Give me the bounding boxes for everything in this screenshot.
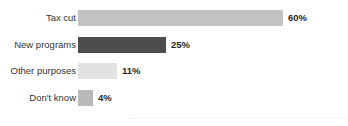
bar-value-label: 25% — [171, 37, 190, 53]
bar-track: 25% — [78, 37, 348, 53]
bottom-divider — [128, 118, 348, 120]
bar-track: 11% — [78, 63, 348, 79]
bar-row: Tax cut 60% — [0, 10, 348, 26]
bar-value-label: 60% — [288, 10, 307, 26]
bar-row: New programs 25% — [0, 37, 348, 53]
bar-fill — [78, 63, 117, 79]
bar-fill — [78, 90, 93, 106]
ghost-text-artifact — [186, 92, 348, 104]
bar-row: Other purposes 11% — [0, 63, 348, 79]
category-label: New programs — [14, 37, 76, 53]
category-label: Don't know — [29, 90, 76, 106]
bar-track: 60% — [78, 10, 348, 26]
category-label: Other purposes — [11, 63, 76, 79]
bar-value-label: 4% — [98, 90, 112, 106]
bar-value-label: 11% — [122, 63, 141, 79]
bar-fill — [78, 10, 283, 26]
bar-fill — [78, 37, 166, 53]
bar-chart: Tax cut 60% New programs 25% Other purpo… — [0, 0, 348, 126]
category-label: Tax cut — [46, 10, 76, 26]
